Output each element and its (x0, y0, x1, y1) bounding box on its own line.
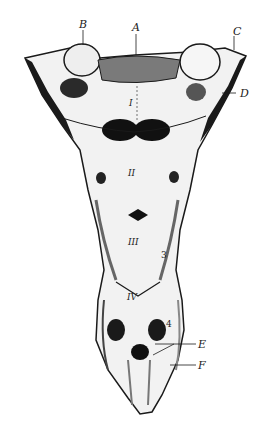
numeral-iii: III (128, 238, 139, 247)
label-f: F (198, 360, 206, 371)
label-c: C (233, 26, 241, 37)
numeral-i: I (129, 99, 133, 108)
sacrum-illustration (0, 0, 266, 428)
label-e: E (198, 339, 206, 350)
label-b: B (79, 19, 87, 30)
label-a: A (132, 22, 140, 33)
label-d: D (240, 88, 249, 99)
foramen-number-4: 4 (166, 320, 172, 329)
numeral-ii: II (128, 169, 135, 178)
numeral-iv: IV (127, 293, 137, 302)
foramen-number-3: 3 (161, 251, 167, 260)
